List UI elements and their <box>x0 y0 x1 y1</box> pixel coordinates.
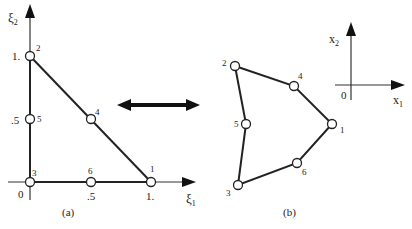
node-a-4-label: 4 <box>95 107 100 117</box>
node-b-5 <box>242 120 251 129</box>
node-b-6-label: 6 <box>302 167 307 177</box>
node-b-3-label: 3 <box>226 188 231 198</box>
caption-b: (b) <box>283 206 296 219</box>
node-b-4 <box>290 82 299 91</box>
node-b-3 <box>234 181 243 190</box>
tick-x-half: .5 <box>87 190 96 202</box>
xi1-arrowhead-icon <box>182 177 196 187</box>
origin-label-a: 0 <box>18 188 24 200</box>
panel-a: 1 2 3 4 5 6 1. .5 0 .5 1. ξ1 ξ2 (a) <box>8 4 196 219</box>
node-a-2-label: 2 <box>36 43 41 53</box>
panel-b: 1 2 3 4 5 6 (b) 0 x1 x2 <box>222 22 405 219</box>
node-b-2 <box>231 62 240 71</box>
x1-axis-label: x1 <box>393 93 403 109</box>
node-b-6 <box>293 159 302 168</box>
x1-arrowhead-icon <box>391 80 405 90</box>
node-a-3-label: 3 <box>32 168 37 178</box>
node-a-1-label: 1 <box>150 164 155 174</box>
tick-y-half: .5 <box>11 114 20 126</box>
tick-y-1: 1. <box>12 50 21 62</box>
diagram-canvas: 1 2 3 4 5 6 1. .5 0 .5 1. ξ1 ξ2 (a) 1 2 … <box>0 0 412 229</box>
x2-axis-label: x2 <box>329 32 339 48</box>
node-b-5-label: 5 <box>234 119 239 129</box>
x2-arrowhead-icon <box>346 22 356 36</box>
caption-a: (a) <box>62 206 75 219</box>
node-b-4-label: 4 <box>298 71 303 81</box>
node-b-1-label: 1 <box>340 125 345 135</box>
node-b-1 <box>328 120 337 129</box>
tick-x-1: 1. <box>146 190 155 202</box>
xi2-arrowhead-icon <box>25 4 35 18</box>
xi2-axis-label: ξ2 <box>8 10 18 27</box>
node-b-2-label: 2 <box>222 58 227 68</box>
node-a-5 <box>26 115 35 124</box>
xi1-axis-label: ξ1 <box>186 191 196 208</box>
double-headed-arrow-icon <box>117 99 200 111</box>
node-a-2 <box>26 52 35 61</box>
node-a-5-label: 5 <box>37 114 42 124</box>
node-a-1 <box>147 178 156 187</box>
origin-label-b: 0 <box>341 89 347 101</box>
node-a-3 <box>26 178 35 187</box>
node-a-6-label: 6 <box>88 166 93 176</box>
node-a-6 <box>87 178 96 187</box>
